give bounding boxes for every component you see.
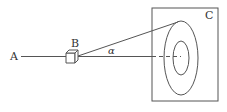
inner-ring bbox=[173, 41, 189, 75]
label-a: A bbox=[9, 50, 19, 63]
diagram-canvas: A B C α bbox=[0, 0, 227, 112]
cube-b bbox=[66, 50, 78, 63]
outer-ring bbox=[164, 21, 198, 95]
label-b: B bbox=[71, 37, 79, 50]
cone-edge-line bbox=[78, 22, 178, 56]
label-alpha: α bbox=[108, 45, 115, 56]
label-c: C bbox=[205, 9, 213, 22]
